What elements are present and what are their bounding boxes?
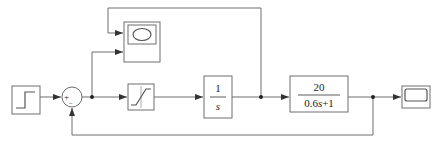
sum-block[interactable]: + −	[62, 87, 82, 108]
xy-scope-screen	[128, 25, 156, 44]
xy-scope-block[interactable]	[124, 22, 160, 62]
branch-point-integrator-output	[259, 95, 263, 99]
integrator-denominator: s	[216, 100, 220, 112]
block-diagram: + − 1 s 20 0.6s+1	[0, 0, 436, 146]
step-block[interactable]	[12, 86, 40, 114]
scope-block[interactable]	[402, 86, 430, 108]
transfer-fcn-numerator: 20	[314, 81, 326, 93]
integrator-block[interactable]: 1 s	[204, 76, 232, 118]
branch-point-error	[90, 95, 94, 99]
sum-minus-sign: −	[69, 100, 73, 108]
saturation-block[interactable]	[128, 84, 154, 110]
transfer-fcn-denominator: 0.6s+1	[304, 97, 334, 109]
integrator-numerator: 1	[215, 82, 221, 94]
wire-error-to-xy-scope[interactable]	[92, 52, 123, 97]
branch-point-output	[371, 95, 375, 99]
transfer-fcn-block[interactable]: 20 0.6s+1	[290, 76, 348, 112]
